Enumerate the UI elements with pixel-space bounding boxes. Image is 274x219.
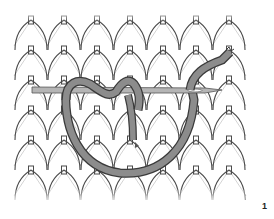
yarn [66, 90, 194, 173]
stitch [113, 136, 147, 170]
stitch [80, 106, 114, 140]
stitch [113, 46, 147, 80]
fade-top [10, 8, 245, 22]
yarn-front [66, 47, 234, 110]
stitch [212, 76, 246, 110]
stitch [14, 136, 48, 170]
figure-number-label: 1 [262, 201, 267, 211]
stitch [14, 106, 48, 140]
stitch [14, 46, 48, 80]
stitch [146, 46, 180, 80]
stitch [212, 106, 246, 140]
stitch [80, 46, 114, 80]
knitting-diagram [0, 0, 274, 219]
stitch [47, 46, 81, 80]
fade-bottom [10, 188, 245, 204]
stitch [212, 136, 246, 170]
stitch [146, 106, 180, 140]
